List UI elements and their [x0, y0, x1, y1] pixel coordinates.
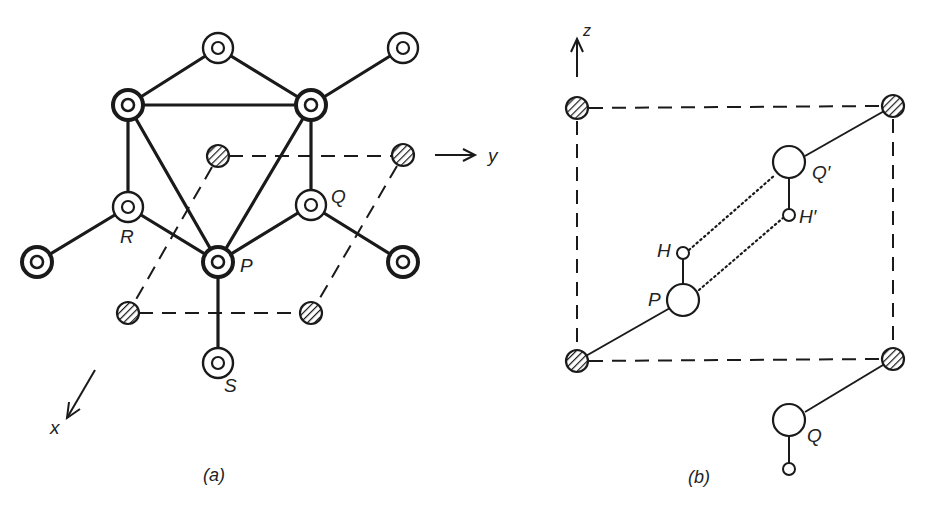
z-axis-arrow: [571, 39, 583, 77]
hydrogen-bond: [689, 175, 775, 250]
y-axis-label: y: [486, 145, 499, 166]
atom-top-center: [203, 33, 233, 63]
atom-P: [667, 284, 699, 316]
atom-far-left: [22, 247, 52, 277]
hatched-atom: [882, 348, 904, 370]
atom-Q: [773, 404, 805, 436]
panel-b: Q′ H′ H P Q z (b): [566, 22, 904, 487]
atom-Q-prime: [773, 146, 805, 178]
bonds-a: [37, 48, 403, 363]
y-axis-arrow: [435, 149, 475, 161]
hatched-atom: [117, 302, 139, 324]
figure-canvas: R Q P S y x (a): [0, 0, 926, 507]
ring-atoms-thick: [22, 90, 418, 277]
z-axis-label: z: [582, 22, 591, 39]
label-Q: Q: [331, 186, 346, 207]
bond: [218, 105, 311, 262]
atom-top-right: [388, 33, 418, 63]
hatched-atom: [207, 145, 229, 167]
hatched-atom: [566, 97, 588, 119]
atom-far-right: [388, 247, 418, 277]
panel-a: R Q P S y x (a): [22, 33, 499, 485]
atom-H-lower: [783, 463, 795, 475]
unit-cell-b: [577, 106, 893, 361]
atom-P: [203, 247, 233, 277]
label-Q: Q: [807, 425, 822, 446]
cell-edge-top: [589, 106, 881, 108]
hatched-atom: [882, 95, 904, 117]
hatched-atom: [566, 350, 588, 372]
label-S: S: [224, 375, 237, 396]
x-axis-label: x: [49, 417, 61, 438]
label-R: R: [120, 226, 134, 247]
label-P: P: [240, 255, 253, 276]
atom-upper-left: [113, 90, 143, 120]
label-P: P: [648, 289, 661, 310]
hydrogen-bond: [699, 218, 783, 290]
bond: [805, 359, 893, 412]
caption-a: (a): [203, 465, 225, 485]
cell-edge-bottom: [589, 359, 881, 361]
bond: [128, 105, 218, 262]
arrow-down-left-icon: [67, 402, 80, 418]
x-axis-arrow: [67, 370, 95, 418]
atom-Q: [296, 190, 326, 220]
caption-b: (b): [688, 467, 710, 487]
atom-S: [203, 348, 233, 378]
label-Q-prime: Q′: [812, 162, 832, 183]
bond: [577, 308, 670, 361]
label-H: H: [657, 240, 671, 261]
label-H-prime: H′: [799, 206, 818, 227]
hatched-atom: [392, 144, 414, 166]
atom-H: [677, 247, 689, 259]
atom-upper-right: [296, 90, 326, 120]
atom-H-prime: [783, 209, 795, 221]
x-axis-line: [67, 370, 95, 418]
atom-R: [113, 192, 143, 222]
hatched-atom: [300, 302, 322, 324]
bond: [805, 106, 893, 156]
